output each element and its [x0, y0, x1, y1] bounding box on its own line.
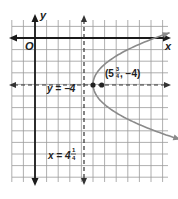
x-axis-left-arrow-icon — [9, 35, 17, 42]
directrix-down-arrow-icon — [81, 178, 87, 185]
symmetry-label: y = −4 — [46, 83, 76, 94]
focus-point — [99, 82, 104, 87]
axis-of-symmetry — [9, 82, 171, 88]
svg-text:x = 4: x = 4 — [47, 150, 71, 161]
directrix-label: x = 4 1 4 — [47, 147, 76, 161]
directrix-up-arrow-icon — [81, 15, 87, 22]
symmetry-left-arrow-icon — [9, 82, 16, 88]
focus-label: (5 3 4 , −4) — [105, 66, 140, 79]
svg-text:, −4): , −4) — [120, 68, 140, 79]
directrix — [81, 15, 87, 185]
svg-text:4: 4 — [72, 155, 76, 161]
vertex-point — [90, 82, 95, 87]
svg-text:(5: (5 — [105, 68, 114, 79]
svg-text:3: 3 — [116, 66, 119, 72]
y-axis-up-arrow-icon — [32, 14, 39, 22]
y-axis-label: y — [39, 9, 47, 21]
svg-text:1: 1 — [72, 147, 76, 153]
parabola-graph: y x O y = −4 x = 4 1 4 (5 3 4 , −4) — [0, 0, 178, 199]
origin-label: O — [25, 40, 34, 52]
x-axis-label: x — [164, 40, 172, 52]
symmetry-right-arrow-icon — [164, 82, 171, 88]
y-axis-down-arrow-icon — [32, 178, 39, 186]
